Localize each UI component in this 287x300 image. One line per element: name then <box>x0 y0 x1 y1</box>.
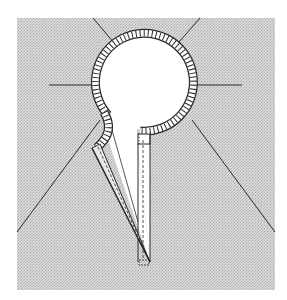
diagram-canvas <box>0 0 287 300</box>
sewing-diagram <box>0 0 287 300</box>
